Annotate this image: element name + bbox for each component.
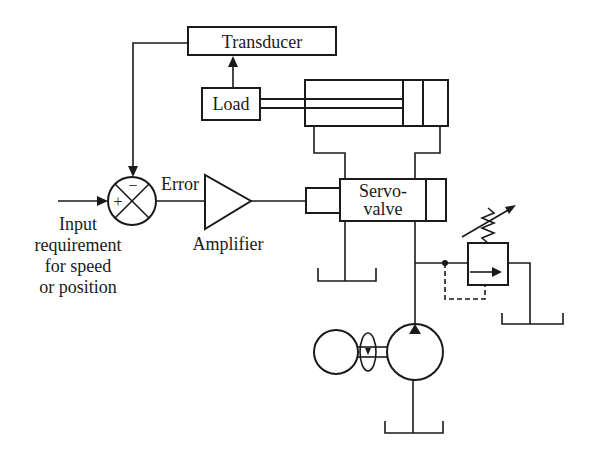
feedback-line	[128, 43, 188, 177]
spring-icon	[482, 208, 494, 243]
error-signal-line: Error	[156, 174, 205, 201]
servo-system-diagram: Transducer Load Servo- valve	[0, 0, 591, 455]
drive-shaft	[358, 333, 387, 371]
error-label: Error	[161, 174, 199, 194]
servo-valve: Servo- valve	[306, 179, 446, 221]
tank-servo-return	[318, 221, 376, 281]
amplifier: Amplifier	[193, 175, 264, 254]
hydraulic-cylinder	[260, 80, 448, 126]
svg-text:or position: or position	[39, 277, 117, 297]
input-arrowhead-icon	[97, 196, 108, 206]
amplifier-label: Amplifier	[193, 234, 264, 254]
summing-junction: + −	[108, 177, 156, 225]
hydraulic-pump	[387, 324, 443, 380]
input-requirement-label: Input requirement for speed or position	[35, 214, 122, 297]
plus-sign: +	[113, 193, 122, 210]
servo-valve-torque-motor	[306, 188, 340, 213]
input-signal-line	[58, 196, 108, 206]
tank-pump-suction	[385, 380, 443, 433]
svg-text:Input: Input	[59, 214, 97, 234]
tank-relief-return	[502, 263, 563, 324]
load-label: Load	[213, 94, 250, 114]
svg-text:requirement: requirement	[35, 235, 122, 255]
transducer-block: Transducer	[188, 27, 336, 55]
minus-sign: −	[128, 177, 137, 194]
pressure-supply-line	[415, 221, 468, 325]
svg-text:for speed: for speed	[45, 256, 111, 276]
servo-valve-label-line2: valve	[364, 199, 403, 219]
servo-valve-label-line1: Servo-	[359, 181, 407, 201]
pump-direction-triangle-icon	[409, 324, 421, 334]
arrowhead-up-icon	[228, 56, 238, 67]
pressure-relief-valve	[445, 205, 516, 299]
cylinder-port-lines	[314, 126, 440, 179]
adjust-arrowhead-icon	[505, 205, 516, 214]
load-block: Load	[202, 88, 260, 120]
feedback-arrowhead-icon	[128, 166, 138, 177]
load-to-transducer-arrow	[228, 56, 238, 88]
transducer-label: Transducer	[222, 32, 302, 52]
electric-motor	[314, 330, 358, 374]
rotation-arrowhead-icon	[365, 348, 371, 355]
